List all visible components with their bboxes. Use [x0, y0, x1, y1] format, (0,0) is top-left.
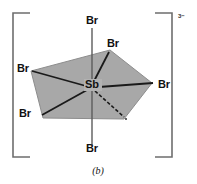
ligand-label-equatorial-lower-left: Br — [19, 107, 32, 119]
left-bracket — [13, 13, 30, 157]
ligand-label-axial-top: Br — [86, 14, 99, 26]
figure-caption: (b) — [92, 165, 104, 177]
center-atom-label: Sb — [85, 78, 99, 90]
ligand-label-equatorial-right: Br — [158, 78, 171, 90]
chemical-structure-figure: Sb Br Br Br Br Br Br 3− (b) — [0, 0, 197, 184]
center-atom-label-group: Sb — [84, 78, 102, 91]
ligand-label-equatorial-upper-right: Br — [107, 37, 120, 49]
ligand-label-equatorial-left: Br — [17, 62, 30, 74]
ligand-label-axial-bottom: Br — [86, 142, 99, 154]
charge-label: 3− — [178, 13, 185, 19]
sbbr7-structure-svg: Sb Br Br Br Br Br Br 3− (b) — [0, 0, 197, 184]
